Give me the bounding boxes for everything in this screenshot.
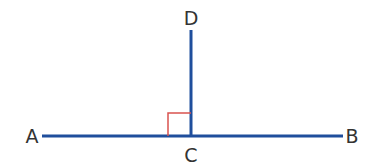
label-d: D <box>184 7 199 29</box>
diagram-canvas: A B C D <box>0 0 371 166</box>
label-a: A <box>26 125 39 147</box>
label-b: B <box>345 125 358 147</box>
right-angle-marker <box>168 113 191 136</box>
label-c: C <box>184 144 197 166</box>
